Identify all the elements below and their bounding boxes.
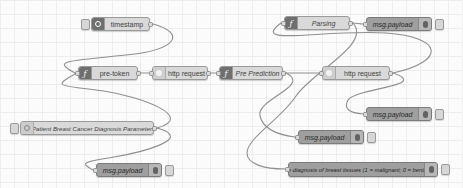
node-diagnosis-debug[interactable]: The diagnosis of breast tissues (1 = mal…	[288, 162, 438, 177]
node-label: Pre Prediction	[233, 67, 282, 79]
bug-glyph	[153, 167, 158, 174]
bug-glyph	[355, 134, 360, 141]
node-pre-prediction[interactable]: ƒPre Prediction	[219, 66, 283, 80]
clock-icon	[92, 18, 105, 30]
debug-toggle-button[interactable]	[435, 109, 444, 120]
node-label: msg.payload	[299, 131, 350, 143]
function-glyph: ƒ	[84, 69, 87, 78]
debug-toggle-button[interactable]	[441, 164, 450, 175]
node-http-request-1[interactable]: http request	[152, 66, 208, 80]
bug-glyph	[429, 166, 434, 173]
function-glyph: ƒ	[225, 69, 228, 78]
node-label: Patient Breast Cancer Diagnosis Paramete…	[34, 122, 153, 134]
debug-toggle-button[interactable]	[367, 132, 376, 143]
flow-editor-canvas[interactable]: timestampƒParsingmsg.payloadƒpre-tokenht…	[0, 0, 463, 188]
node-label: msg.payload	[367, 18, 418, 30]
input-port[interactable]	[216, 71, 221, 76]
node-label: http request	[166, 67, 207, 79]
inject-glyph	[24, 125, 30, 131]
clock-glyph	[95, 21, 101, 27]
debug-toggle-button[interactable]	[435, 19, 444, 30]
node-debug-3[interactable]: msg.payload	[298, 130, 364, 144]
input-port[interactable]	[319, 71, 324, 76]
node-parsing[interactable]: ƒParsing	[284, 16, 350, 30]
node-debug-1[interactable]: msg.payload	[366, 17, 432, 31]
bug-icon	[418, 18, 431, 30]
function-icon: ƒ	[79, 67, 92, 79]
node-patient-params[interactable]: Patient Breast Cancer Diagnosis Paramete…	[20, 121, 154, 135]
globe-glyph	[156, 70, 162, 76]
node-label: http request	[336, 67, 389, 79]
bug-icon	[350, 131, 363, 143]
node-pre-token[interactable]: ƒpre-token	[78, 66, 138, 80]
wire-patient-params-to-pre-token	[62, 74, 170, 128]
function-icon: ƒ	[220, 67, 233, 79]
output-port[interactable]	[388, 71, 393, 76]
bug-icon	[418, 108, 431, 120]
node-label: msg.payload	[367, 108, 418, 120]
input-port[interactable]	[75, 71, 80, 76]
node-label: The diagnosis of breast tissues (1 = mal…	[289, 163, 424, 176]
node-label: timestamp	[105, 18, 149, 30]
node-label: pre-token	[92, 67, 137, 79]
output-port[interactable]	[281, 71, 286, 76]
output-port[interactable]	[206, 71, 211, 76]
input-port[interactable]	[295, 135, 300, 140]
output-port[interactable]	[148, 22, 153, 27]
output-port[interactable]	[152, 126, 157, 131]
wire-parsing-to-debug-1	[353, 23, 363, 24]
function-icon: ƒ	[285, 17, 298, 29]
globe-glyph	[326, 70, 332, 76]
inject-button[interactable]	[10, 123, 19, 134]
node-label: Parsing	[298, 17, 349, 29]
input-port[interactable]	[363, 112, 368, 117]
input-port[interactable]	[93, 168, 98, 173]
inject-button[interactable]	[81, 19, 90, 30]
node-debug-2[interactable]: msg.payload	[366, 107, 432, 121]
node-http-request-2[interactable]: http request	[322, 66, 390, 80]
globe-icon	[323, 67, 336, 79]
bug-icon	[424, 163, 437, 176]
input-port[interactable]	[363, 22, 368, 27]
input-port[interactable]	[285, 167, 290, 172]
output-port[interactable]	[136, 71, 141, 76]
input-port[interactable]	[281, 21, 286, 26]
node-debug-4[interactable]: msg.payload	[96, 163, 162, 177]
bug-glyph	[423, 111, 428, 118]
inject-icon	[21, 122, 34, 134]
globe-icon	[153, 67, 166, 79]
wire-pre-prediction-to-debug-3	[260, 73, 295, 137]
node-label: msg.payload	[97, 164, 148, 176]
node-timestamp[interactable]: timestamp	[91, 17, 150, 31]
function-glyph: ƒ	[290, 19, 293, 28]
wire-parsing-to-diagnosis-debug	[247, 23, 357, 169]
bug-glyph	[423, 21, 428, 28]
output-port[interactable]	[348, 21, 353, 26]
bug-icon	[148, 164, 161, 176]
debug-toggle-button[interactable]	[165, 165, 174, 176]
input-port[interactable]	[149, 71, 154, 76]
